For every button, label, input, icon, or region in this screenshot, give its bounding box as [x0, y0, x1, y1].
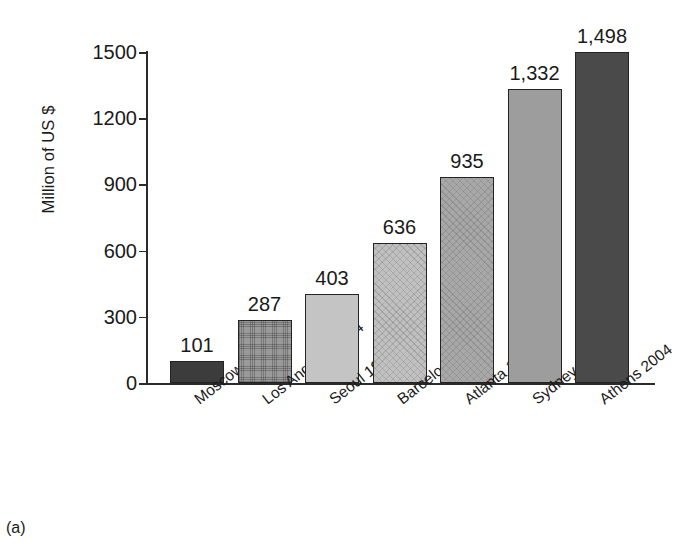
- bar-chart-figure: Million of US $ 030060090012001500 101Mo…: [0, 0, 675, 553]
- bar-value-label: 101: [180, 334, 213, 357]
- bar-value-label: 636: [383, 216, 416, 239]
- y-axis-tick-mark: [139, 52, 146, 54]
- y-axis-tick-label: 300: [104, 305, 137, 328]
- figure-caption: (a): [6, 519, 26, 537]
- y-axis-tick-mark: [139, 118, 146, 120]
- bar[interactable]: 1,332Sydney 2000: [508, 89, 562, 383]
- bar-value-label: 935: [450, 150, 483, 173]
- y-axis-tick-mark: [139, 184, 146, 186]
- y-axis-tick-label: 600: [104, 239, 137, 262]
- plot-area: 030060090012001500 101Moscow 1980287Los …: [146, 52, 655, 383]
- bar-value-label: 287: [248, 293, 281, 316]
- bar-value-label: 403: [315, 267, 348, 290]
- bar[interactable]: 287Los Angeles 1984: [238, 320, 292, 383]
- y-axis-tick-label: 0: [126, 372, 137, 395]
- y-axis-tick-label: 1500: [93, 41, 138, 64]
- bar-value-label: 1,498: [577, 25, 627, 48]
- bar[interactable]: 101Moscow 1980: [170, 361, 224, 383]
- x-axis-category-label: Athens 2004: [596, 340, 675, 408]
- y-axis-tick-mark: [139, 317, 146, 319]
- bar[interactable]: 403Seoul 1988: [305, 294, 359, 383]
- bar[interactable]: 935Atlanta 1996: [440, 177, 494, 383]
- y-axis-title: Million of US $: [39, 50, 58, 270]
- y-axis-tick-mark: [139, 383, 146, 385]
- y-axis-tick-mark: [139, 251, 146, 253]
- y-axis-line: [146, 51, 148, 383]
- y-axis-tick-label: 1200: [93, 107, 138, 130]
- bar[interactable]: 636Barcelona 1992: [373, 243, 427, 383]
- y-axis-tick-label: 900: [104, 173, 137, 196]
- bar[interactable]: 1,498Athens 2004: [575, 52, 629, 383]
- bar-value-label: 1,332: [509, 62, 559, 85]
